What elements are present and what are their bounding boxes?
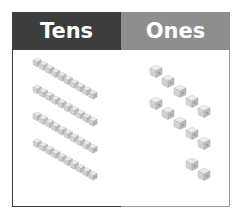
ones-cube bbox=[186, 95, 198, 108]
ones-cube bbox=[198, 168, 210, 181]
ones-cube bbox=[198, 137, 210, 150]
ones-cube bbox=[150, 97, 162, 110]
base-ten-blocks bbox=[0, 0, 241, 222]
ones-cube bbox=[186, 127, 198, 140]
ones-cube bbox=[150, 65, 162, 78]
ones-cube bbox=[186, 158, 198, 171]
ones-cube bbox=[162, 107, 174, 120]
ones-cube bbox=[162, 75, 174, 88]
ones-cube bbox=[174, 117, 186, 130]
ones-cube bbox=[198, 105, 210, 118]
ones-cube bbox=[174, 85, 186, 98]
